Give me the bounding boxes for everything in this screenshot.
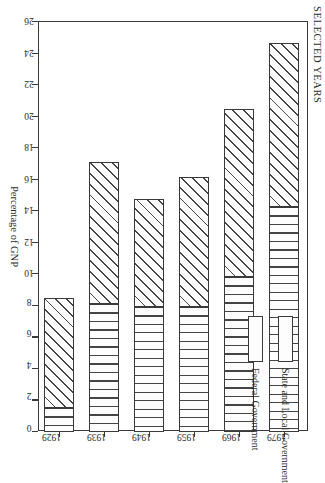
- value-tick-4: [32, 368, 38, 369]
- plot-area: [39, 22, 307, 430]
- bar-segment-federal-1939: [90, 304, 120, 432]
- value-tick-label-18: 18: [24, 142, 34, 152]
- value-tick-label-12: 12: [24, 237, 34, 247]
- bar-segment-state-local-1939: [90, 162, 120, 304]
- bar-segment-state-local-1959: [180, 177, 210, 308]
- category-label-1979: 1979: [268, 432, 287, 442]
- value-axis-title: Percentage of GNP: [9, 0, 20, 453]
- value-tick-label-20: 20: [24, 110, 34, 120]
- category-label-1969: 1969: [223, 432, 242, 442]
- value-tick-label-22: 22: [24, 79, 34, 89]
- value-tick-0: [32, 431, 38, 432]
- legend-swatch-state-local: [278, 316, 293, 362]
- value-tick-label-2: 2: [27, 392, 32, 402]
- legend-label-1: State and Local Government: [278, 368, 293, 483]
- bar-group-1939: [90, 22, 120, 432]
- bar-group-1959: [180, 22, 210, 432]
- value-tick-label-24: 24: [24, 47, 34, 57]
- category-label-1959: 1959: [178, 432, 197, 442]
- bar-segment-state-local-1949: [135, 199, 165, 308]
- value-tick-label-16: 16: [24, 173, 34, 183]
- value-tick-label-8: 8: [27, 297, 32, 307]
- value-tick-2: [32, 399, 38, 400]
- legend-swatch-federal: [248, 316, 263, 362]
- category-label-1949: 1949: [133, 432, 152, 442]
- value-tick-8: [32, 305, 38, 306]
- chart-title: SELECTED YEARS: [312, 6, 323, 104]
- value-tick-label-10: 10: [24, 268, 34, 278]
- value-tick-label-0: 0: [27, 423, 32, 433]
- category-label-1929: 1929: [43, 432, 62, 442]
- bar-group-1949: [135, 22, 165, 432]
- bar-segment-state-local-1929: [45, 298, 75, 408]
- bar-segment-federal-1929: [45, 408, 75, 432]
- plot-frame: [38, 21, 308, 431]
- value-axis: 02468101214161820222426: [37, 21, 38, 431]
- bar-segment-state-local-1979: [270, 43, 300, 207]
- value-tick-label-14: 14: [24, 205, 34, 215]
- category-label-1939: 1939: [88, 432, 107, 442]
- bar-segment-federal-1959: [180, 307, 210, 432]
- legend-label-2: Federal Government: [248, 368, 263, 450]
- bar-group-1929: [45, 22, 75, 432]
- value-tick-label-4: 4: [27, 360, 32, 370]
- bar-segment-state-local-1969: [225, 109, 255, 278]
- value-tick-label-6: 6: [27, 329, 32, 339]
- value-tick-label-26: 26: [24, 16, 34, 26]
- bar-segment-federal-1949: [135, 307, 165, 432]
- value-tick-6: [32, 336, 38, 337]
